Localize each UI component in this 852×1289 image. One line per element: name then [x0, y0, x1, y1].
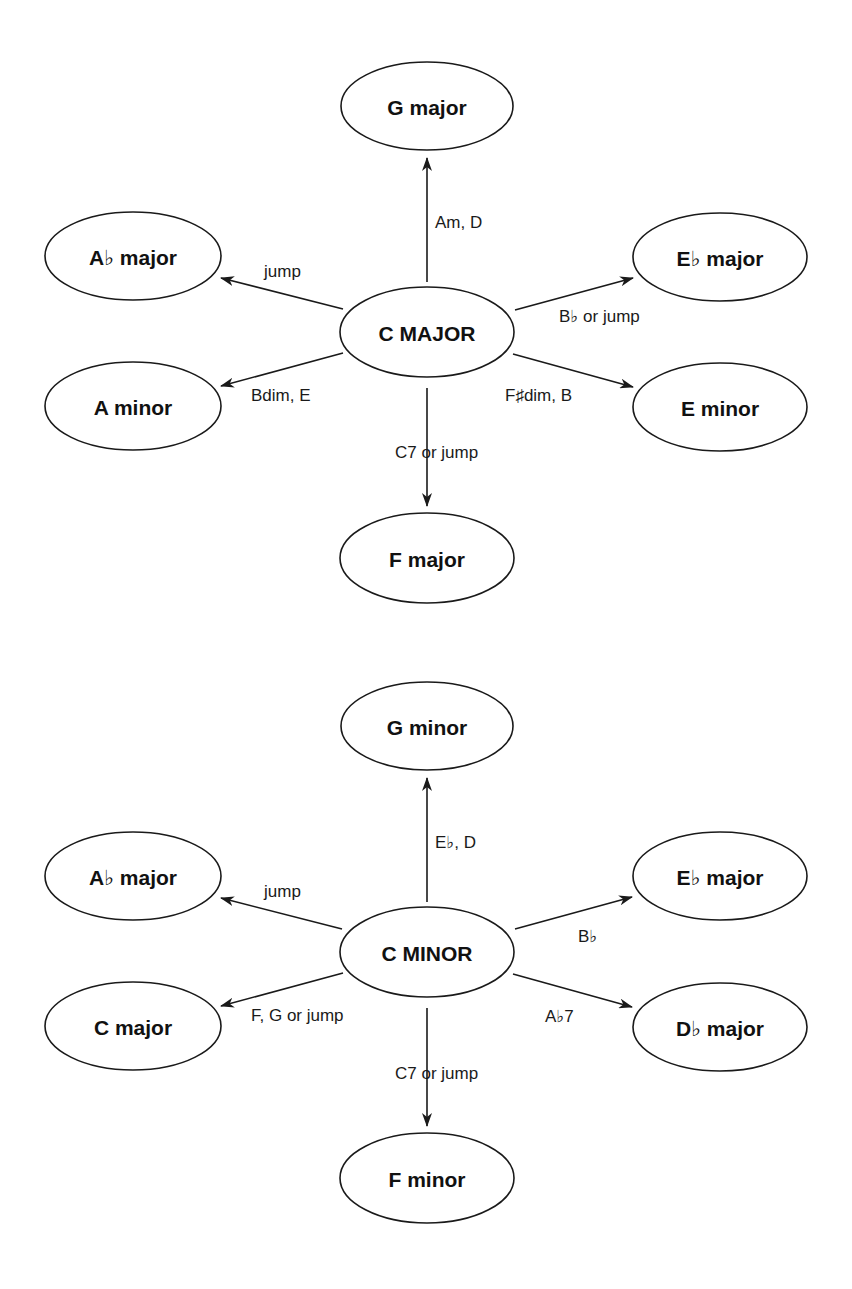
arrow-up-left-icon: [221, 898, 342, 929]
edge-to-c-major: F, G or jump: [221, 973, 344, 1025]
edge-to-e-flat-major: B♭: [515, 897, 632, 946]
node-g-minor: G minor: [341, 682, 513, 770]
edge-label: C7 or jump: [395, 443, 478, 462]
edge-label: C7 or jump: [395, 1064, 478, 1083]
node-label: A♭ major: [89, 866, 177, 889]
edge-label: Bdim, E: [251, 386, 311, 405]
node-label: F minor: [389, 1168, 466, 1191]
arrow-down-right-icon: [513, 354, 633, 387]
edge-label: F♯dim, B: [505, 386, 572, 405]
edge-label: Am, D: [435, 213, 482, 232]
edge-to-a-flat-major: jump: [221, 262, 343, 309]
node-label: C MAJOR: [379, 322, 476, 345]
node-label: G minor: [387, 716, 468, 739]
node-label: G major: [387, 96, 466, 119]
node-e-flat-major: E♭ major: [633, 832, 807, 920]
node-f-minor: F minor: [340, 1133, 514, 1223]
edge-label: B♭: [578, 927, 597, 946]
edge-to-d-flat-major: A♭7: [513, 974, 632, 1026]
arrow-up-left-icon: [221, 278, 343, 309]
edge-to-f-major: C7 or jump: [395, 388, 478, 506]
edge-label: E♭, D: [435, 833, 476, 852]
node-g-major: G major: [341, 62, 513, 150]
arrow-down-left-icon: [221, 973, 343, 1006]
node-c-major: C major: [45, 982, 221, 1070]
edge-to-e-flat-major: B♭ or jump: [515, 278, 640, 326]
edge-label: jump: [263, 882, 301, 901]
edge-to-a-flat-major: jump: [221, 882, 342, 929]
c-minor-diagram: E♭, D jump B♭ F, G or jump A♭7 C7 or jum…: [45, 682, 807, 1223]
node-label: D♭ major: [676, 1017, 764, 1040]
edge-to-g-major: Am, D: [427, 158, 482, 282]
node-label: E♭ major: [677, 247, 764, 270]
node-label: C MINOR: [382, 942, 473, 965]
node-a-flat-major: A♭ major: [45, 832, 221, 920]
center-node-c-major: C MAJOR: [340, 287, 514, 377]
node-label: A♭ major: [89, 246, 177, 269]
arrow-up-right-icon: [515, 278, 633, 310]
edge-to-e-minor: F♯dim, B: [505, 354, 633, 405]
node-label: E minor: [681, 397, 759, 420]
arrow-down-left-icon: [221, 353, 343, 386]
edge-to-g-minor: E♭, D: [427, 778, 476, 902]
edge-to-f-minor: C7 or jump: [395, 1008, 478, 1126]
node-label: A minor: [94, 396, 173, 419]
node-d-flat-major: D♭ major: [633, 983, 807, 1071]
center-node-c-minor: C MINOR: [340, 907, 514, 997]
node-a-flat-major: A♭ major: [45, 212, 221, 300]
c-major-diagram: Am, D jump B♭ or jump Bdim, E F♯dim, B C…: [45, 62, 807, 603]
arrow-up-right-icon: [515, 897, 632, 929]
edge-label: F, G or jump: [251, 1006, 344, 1025]
edge-label: A♭7: [545, 1007, 574, 1026]
arrow-down-right-icon: [513, 974, 632, 1007]
edge-label: jump: [263, 262, 301, 281]
node-label: E♭ major: [677, 866, 764, 889]
edge-to-a-minor: Bdim, E: [221, 353, 343, 405]
node-label: C major: [94, 1016, 172, 1039]
modulation-diagram-canvas: Am, D jump B♭ or jump Bdim, E F♯dim, B C…: [0, 0, 852, 1289]
node-a-minor: A minor: [45, 362, 221, 450]
node-e-minor: E minor: [633, 363, 807, 451]
node-f-major: F major: [340, 513, 514, 603]
node-e-flat-major: E♭ major: [633, 213, 807, 301]
edge-label: B♭ or jump: [559, 307, 640, 326]
node-label: F major: [389, 548, 465, 571]
